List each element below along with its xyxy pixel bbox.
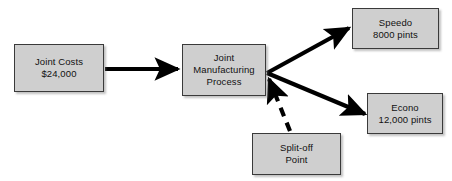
node-joint-costs-line-2: $24,000	[41, 68, 76, 80]
node-econo[interactable]: Econo 12,000 pints	[367, 93, 443, 134]
node-joint-process-line-1: Joint	[214, 52, 235, 64]
node-splitoff-line-1: Split-off	[280, 142, 313, 154]
node-joint-process-line-2: Manufacturing	[193, 64, 255, 76]
connector-splitoff-to-process	[269, 79, 290, 131]
node-joint-manufacturing-process[interactable]: Joint Manufacturing Process	[182, 44, 266, 96]
connector-process-to-speedo	[267, 28, 349, 73]
node-econo-line-2: 12,000 pints	[379, 114, 432, 126]
node-joint-costs[interactable]: Joint Costs $24,000	[14, 44, 104, 92]
node-speedo-line-1: Speedo	[379, 17, 412, 29]
connector-process-to-econo	[267, 73, 365, 114]
diagram-canvas: Joint Costs $24,000 Joint Manufacturing …	[0, 0, 452, 181]
node-speedo[interactable]: Speedo 8000 pints	[352, 8, 439, 49]
node-splitoff-line-2: Point	[285, 154, 307, 166]
node-joint-costs-line-1: Joint Costs	[35, 56, 83, 68]
node-econo-line-1: Econo	[391, 102, 418, 114]
node-split-off-point[interactable]: Split-off Point	[252, 133, 341, 175]
node-joint-process-line-3: Process	[206, 76, 241, 88]
node-speedo-line-2: 8000 pints	[373, 29, 418, 41]
